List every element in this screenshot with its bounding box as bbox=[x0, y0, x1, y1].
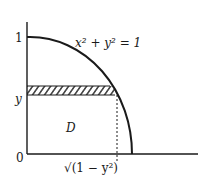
x-tick-sqrt-label: √(1 − y²) bbox=[64, 161, 118, 175]
origin-label: 0 bbox=[16, 151, 24, 165]
y-tick-one-label: 1 bbox=[15, 31, 23, 45]
diagram-canvas: 1 y 0 x² + y² = 1 D √(1 − y²) bbox=[0, 0, 210, 185]
curve-equation-label: x² + y² = 1 bbox=[75, 36, 141, 50]
y-tick-y-label: y bbox=[14, 92, 22, 106]
hatched-strip bbox=[27, 86, 115, 95]
region-d-label: D bbox=[65, 121, 76, 135]
